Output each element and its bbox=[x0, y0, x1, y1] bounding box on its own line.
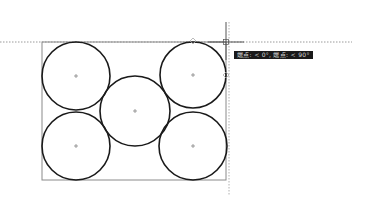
snap-marker-icon bbox=[190, 38, 196, 44]
center-mark-icon bbox=[191, 73, 195, 77]
snap-markers bbox=[190, 38, 229, 78]
center-mark-icon bbox=[74, 74, 78, 78]
center-mark-icon bbox=[133, 109, 137, 113]
drawing-canvas[interactable] bbox=[0, 0, 367, 197]
center-mark-icon bbox=[191, 144, 195, 148]
center-mark-icon bbox=[74, 144, 78, 148]
tooltip-text: 端点: < 0°, 端点: < 90° bbox=[237, 51, 310, 58]
snap-tracking-tooltip: 端点: < 0°, 端点: < 90° bbox=[234, 51, 313, 59]
circles-group bbox=[42, 42, 227, 180]
